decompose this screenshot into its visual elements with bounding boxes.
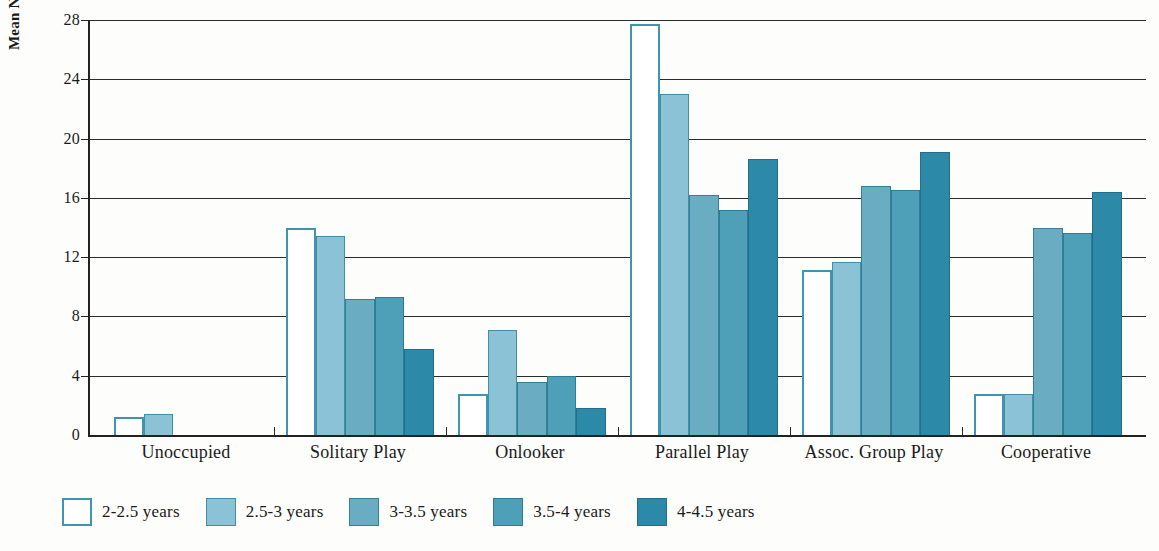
- bar: [286, 228, 316, 436]
- legend-swatch: [62, 498, 92, 526]
- y-axis-tick: [81, 139, 90, 140]
- bar: [404, 349, 434, 435]
- bar: [316, 236, 346, 435]
- legend-swatch: [206, 498, 236, 526]
- bar: [630, 24, 660, 435]
- y-axis-tick-label: 24: [40, 71, 80, 87]
- legend-item[interactable]: 2.5-3 years: [206, 498, 324, 526]
- plot-area: [88, 20, 1146, 437]
- legend-swatch: [493, 498, 523, 526]
- bar: [144, 414, 174, 435]
- bar: [1092, 192, 1122, 435]
- bar: [576, 408, 606, 435]
- bar: [1004, 394, 1034, 436]
- bar: [802, 270, 832, 435]
- y-axis-tick-label: 4: [40, 368, 80, 384]
- y-axis-tick-label: 28: [40, 12, 80, 28]
- group-separator: [274, 427, 275, 435]
- y-axis-tick-label: 8: [40, 308, 80, 324]
- bar: [1033, 228, 1063, 436]
- bar: [891, 190, 921, 435]
- y-axis-tick: [81, 79, 90, 80]
- bar: [832, 262, 862, 435]
- y-axis-tick: [81, 316, 90, 317]
- bar-group: [114, 20, 262, 435]
- bar: [719, 210, 749, 435]
- bar: [114, 417, 144, 435]
- bar-group: [974, 20, 1122, 435]
- y-axis-tick: [81, 198, 90, 199]
- y-axis-title-wrap: Mean Number of Times: [0, 0, 40, 440]
- bar-group: [286, 20, 434, 435]
- legend-swatch: [637, 498, 667, 526]
- legend-label: 2.5-3 years: [246, 502, 324, 522]
- bar-group: [630, 20, 778, 435]
- bar: [345, 299, 375, 435]
- bar: [1063, 233, 1093, 435]
- group-separator: [790, 427, 791, 435]
- legend-item[interactable]: 4-4.5 years: [637, 498, 755, 526]
- chart-legend: 2-2.5 years2.5-3 years3-3.5 years3.5-4 y…: [62, 492, 781, 532]
- y-axis-tick-label: 12: [40, 249, 80, 265]
- bar: [375, 297, 405, 435]
- y-axis-tick: [81, 376, 90, 377]
- group-separator: [962, 427, 963, 435]
- legend-item[interactable]: 3.5-4 years: [493, 498, 611, 526]
- bar: [517, 382, 547, 435]
- bar: [920, 152, 950, 435]
- bar: [458, 394, 488, 436]
- bar: [488, 330, 518, 435]
- y-axis-tick: [81, 257, 90, 258]
- x-axis-tick-label: Cooperative: [942, 440, 1150, 464]
- y-axis-tick-labels: 0481216202428: [40, 20, 80, 435]
- y-axis-tick: [81, 20, 90, 21]
- bar-groups: [90, 20, 1146, 435]
- group-separator: [446, 427, 447, 435]
- legend-item[interactable]: 2-2.5 years: [62, 498, 180, 526]
- bar-group: [802, 20, 950, 435]
- bar: [547, 376, 577, 435]
- legend-label: 3.5-4 years: [533, 502, 611, 522]
- group-separator: [618, 427, 619, 435]
- bar: [861, 186, 891, 435]
- legend-label: 4-4.5 years: [677, 502, 755, 522]
- bar: [660, 94, 690, 435]
- y-axis-title: Mean Number of Times: [6, 0, 23, 50]
- chart-root: Mean Number of Times 0481216202428 Unocc…: [0, 0, 1159, 551]
- y-axis-tick-label: 20: [40, 131, 80, 147]
- legend-label: 3-3.5 years: [389, 502, 467, 522]
- bar: [748, 159, 778, 435]
- bar: [974, 394, 1004, 436]
- bar-group: [458, 20, 606, 435]
- legend-label: 2-2.5 years: [102, 502, 180, 522]
- y-axis-tick-label: 16: [40, 190, 80, 206]
- legend-swatch: [349, 498, 379, 526]
- x-axis-tick-labels: UnoccupiedSolitary PlayOnlookerParallel …: [88, 440, 1144, 470]
- y-axis-tick-label: 0: [40, 427, 80, 443]
- legend-item[interactable]: 3-3.5 years: [349, 498, 467, 526]
- bar: [689, 195, 719, 435]
